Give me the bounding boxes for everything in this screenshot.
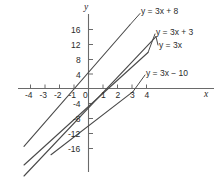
series-label-y-3x-plus-3: y = 3x + 3 <box>156 28 193 37</box>
y-tick-label--4: -4 <box>73 100 81 109</box>
series-label-y-3x-plus-8: y = 3x + 8 <box>141 7 178 16</box>
leader-line-3 <box>156 37 158 45</box>
series-label-y-3x: y = 3x <box>159 41 182 50</box>
y-axis-label: y <box>84 3 88 13</box>
y-tick-label--12: -12 <box>68 130 80 139</box>
x-tick-label--4: -4 <box>25 91 33 100</box>
x-tick-label-0: 0 <box>83 91 88 100</box>
x-tick-label--3: -3 <box>40 91 48 100</box>
line-graph-figure: -4 -3 -2 -1 0 1 2 3 4 16 12 8 4 -4 -8 -1… <box>0 0 222 178</box>
y-tick-label-4: 4 <box>76 71 81 80</box>
series-label-y-3x-minus-10: y = 3x − 10 <box>146 69 188 78</box>
y-tick-label--8: -8 <box>73 115 81 124</box>
x-tick-label-2: 2 <box>116 91 121 100</box>
y-tick-label-16: 16 <box>71 26 80 35</box>
leader-line-1 <box>130 14 140 26</box>
x-axis-label: x <box>204 90 208 100</box>
x-tick-label-4: 4 <box>145 91 150 100</box>
line-y-3x-plus-3 <box>24 53 148 166</box>
x-tick-label-1: 1 <box>101 91 106 100</box>
x-tick-label-3: 3 <box>130 91 135 100</box>
data-lines <box>24 25 156 176</box>
label-leaders <box>130 14 158 92</box>
y-tick-label--16: -16 <box>68 145 80 154</box>
y-tick-label-8: 8 <box>76 56 81 65</box>
y-tick-label-12: 12 <box>71 41 80 50</box>
x-tick-label--2: -2 <box>54 91 62 100</box>
line-y-3x <box>24 37 156 176</box>
